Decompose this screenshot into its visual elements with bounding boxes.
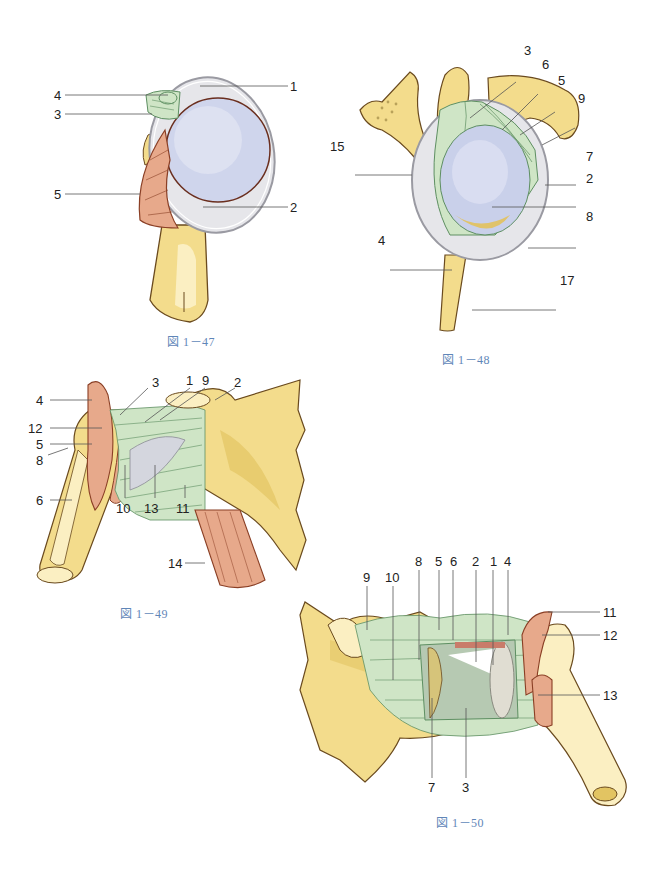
- label-fig48-5: 5: [558, 74, 565, 87]
- label-fig47-1: 1: [290, 80, 297, 93]
- caption-fig-1-47: 図 1－47: [167, 332, 215, 350]
- label-fig47-3: 3: [54, 108, 61, 121]
- label-fig47-5: 5: [54, 188, 61, 201]
- figure-1-48-illustration: [320, 30, 640, 370]
- figure-1-47: 4 3 5 1 2 図 1－47: [0, 0, 330, 350]
- label-fig50-9: 9: [363, 571, 370, 584]
- caption-fig-1-49: 図 1－49: [120, 604, 168, 622]
- label-fig49-11: 11: [176, 502, 190, 515]
- label-fig50-12: 12: [603, 629, 617, 642]
- muscle-14: [195, 510, 265, 588]
- label-fig48-7: 7: [586, 150, 593, 163]
- humeral-head-cut: [490, 642, 514, 718]
- label-fig49-6: 6: [36, 494, 43, 507]
- label-fig49-10: 10: [116, 502, 130, 515]
- label-fig50-1: 1: [490, 555, 497, 568]
- label-fig50-8: 8: [415, 555, 422, 568]
- label-fig49-1: 1: [186, 374, 193, 387]
- label-fig49-5: 5: [36, 438, 43, 451]
- muscle-13: [532, 675, 552, 727]
- label-fig47-2: 2: [290, 201, 297, 214]
- label-fig48-6: 6: [542, 58, 549, 71]
- humerus-shaft-highlight: [175, 244, 196, 309]
- label-fig50-3: 3: [462, 781, 469, 794]
- figure-1-47-illustration: [0, 0, 330, 350]
- figure-1-50-illustration: [290, 530, 650, 830]
- label-fig49-14: 14: [168, 557, 182, 570]
- label-fig49-4: 4: [36, 394, 43, 407]
- label-fig50-7: 7: [428, 781, 435, 794]
- caption-fig-1-48: 図 1－48: [442, 350, 490, 368]
- label-fig49-3: 3: [152, 376, 159, 389]
- scapula-lateral-border: [440, 255, 466, 331]
- caption-fig-1-50: 図 1－50: [436, 813, 484, 831]
- tendon-2: [455, 642, 505, 648]
- label-fig50-4: 4: [504, 555, 511, 568]
- label-fig49-13: 13: [144, 502, 158, 515]
- label-fig48-15: 15: [330, 140, 344, 153]
- label-fig50-10: 10: [385, 571, 399, 584]
- label-fig50-6: 6: [450, 555, 457, 568]
- label-fig50-5: 5: [435, 555, 442, 568]
- label-fig50-11: 11: [603, 606, 617, 619]
- label-fig48-17: 17: [560, 274, 574, 287]
- label-fig48-8: 8: [586, 210, 593, 223]
- label-fig50-13: 13: [603, 689, 617, 702]
- label-fig49-2: 2: [234, 376, 241, 389]
- figure-1-48: 3 6 5 9 15 7 2 8 4 17 図 1－48: [320, 30, 640, 370]
- figure-1-50: 8 5 6 2 1 4 9 10 11 12 13 7 3 図 1－50: [290, 530, 650, 830]
- label-fig49-9: 9: [202, 374, 209, 387]
- label-fig50-2: 2: [472, 555, 479, 568]
- label-fig49-12: 12: [28, 422, 42, 435]
- label-fig47-4: 4: [54, 89, 61, 102]
- label-fig48-3: 3: [524, 44, 531, 57]
- label-fig48-9: 9: [578, 92, 585, 105]
- label-fig49-8: 8: [36, 454, 43, 467]
- label-fig48-4: 4: [378, 234, 385, 247]
- label-fig48-2: 2: [586, 172, 593, 185]
